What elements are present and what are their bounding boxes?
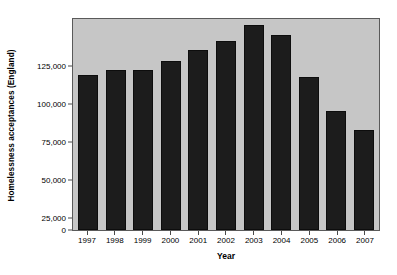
bar-2005 xyxy=(299,77,319,230)
y-tick-125000: 125,000 xyxy=(37,62,72,71)
x-tick-mark-icon xyxy=(309,231,310,235)
x-tick-label: 2006 xyxy=(328,236,346,245)
x-tick-mark-icon xyxy=(198,231,199,235)
y-tick-label: 0 xyxy=(62,226,66,235)
y-tick-0: 0 xyxy=(62,226,72,235)
x-tick-1998: 1998 xyxy=(105,231,125,247)
x-tick-mark-icon xyxy=(87,231,88,235)
x-tick-label: 1999 xyxy=(134,236,152,245)
x-tick-2006: 2006 xyxy=(327,231,347,247)
bar-1999 xyxy=(133,70,153,231)
y-tick-label: 25,000 xyxy=(42,214,66,223)
x-tick-2003: 2003 xyxy=(244,231,264,247)
x-tick-mark-icon xyxy=(225,231,226,235)
x-tick-label: 2000 xyxy=(161,236,179,245)
bar-2001 xyxy=(188,50,208,230)
x-tick-mark-icon xyxy=(253,231,254,235)
x-tick-1999: 1999 xyxy=(133,231,153,247)
bar-2007 xyxy=(354,130,374,230)
y-tick-label: 125,000 xyxy=(37,62,66,71)
x-tick-2001: 2001 xyxy=(188,231,208,247)
x-tick-1997: 1997 xyxy=(77,231,97,247)
x-tick-2000: 2000 xyxy=(160,231,180,247)
x-tick-label: 1997 xyxy=(78,236,96,245)
x-tick-label: 2005 xyxy=(300,236,318,245)
bar-2003 xyxy=(244,25,264,230)
y-tick-75000: 75,000 xyxy=(42,138,72,147)
x-tick-mark-icon xyxy=(281,231,282,235)
x-tick-mark-icon xyxy=(364,231,365,235)
x-tick-label: 2002 xyxy=(217,236,235,245)
x-tick-label: 2004 xyxy=(273,236,291,245)
bar-1997 xyxy=(78,75,98,230)
x-tick-mark-icon xyxy=(337,231,338,235)
x-tick-label: 2001 xyxy=(189,236,207,245)
y-axis-ticks: 125,000 100,000 75,000 50,000 25,000 0 xyxy=(0,18,72,231)
y-tick-100000: 100,000 xyxy=(37,100,72,109)
x-tick-2004: 2004 xyxy=(272,231,292,247)
x-tick-label: 1998 xyxy=(106,236,124,245)
y-tick-25000: 25,000 xyxy=(42,214,72,223)
y-tick-50000: 50,000 xyxy=(42,176,72,185)
x-tick-label: 2003 xyxy=(245,236,263,245)
bar-chart-figure: Homelessness acceptances (England) 125,0… xyxy=(0,0,397,275)
x-tick-label: 2007 xyxy=(356,236,374,245)
y-tick-label: 50,000 xyxy=(42,176,66,185)
x-tick-mark-icon xyxy=(142,231,143,235)
x-tick-2005: 2005 xyxy=(299,231,319,247)
bar-2006 xyxy=(326,111,346,230)
x-axis-ticks: 1997199819992000200120022003200420052006… xyxy=(72,231,380,247)
x-tick-2007: 2007 xyxy=(355,231,375,247)
bar-2000 xyxy=(161,61,181,230)
x-axis-title: Year xyxy=(72,251,380,261)
bar-1998 xyxy=(106,70,126,230)
y-tick-label: 75,000 xyxy=(42,138,66,147)
y-tick-label: 100,000 xyxy=(37,100,66,109)
bar-2004 xyxy=(271,35,291,231)
x-tick-mark-icon xyxy=(170,231,171,235)
bar-series xyxy=(73,19,379,230)
x-tick-mark-icon xyxy=(114,231,115,235)
x-tick-2002: 2002 xyxy=(216,231,236,247)
bar-2002 xyxy=(216,41,236,230)
plot-area xyxy=(72,18,380,231)
